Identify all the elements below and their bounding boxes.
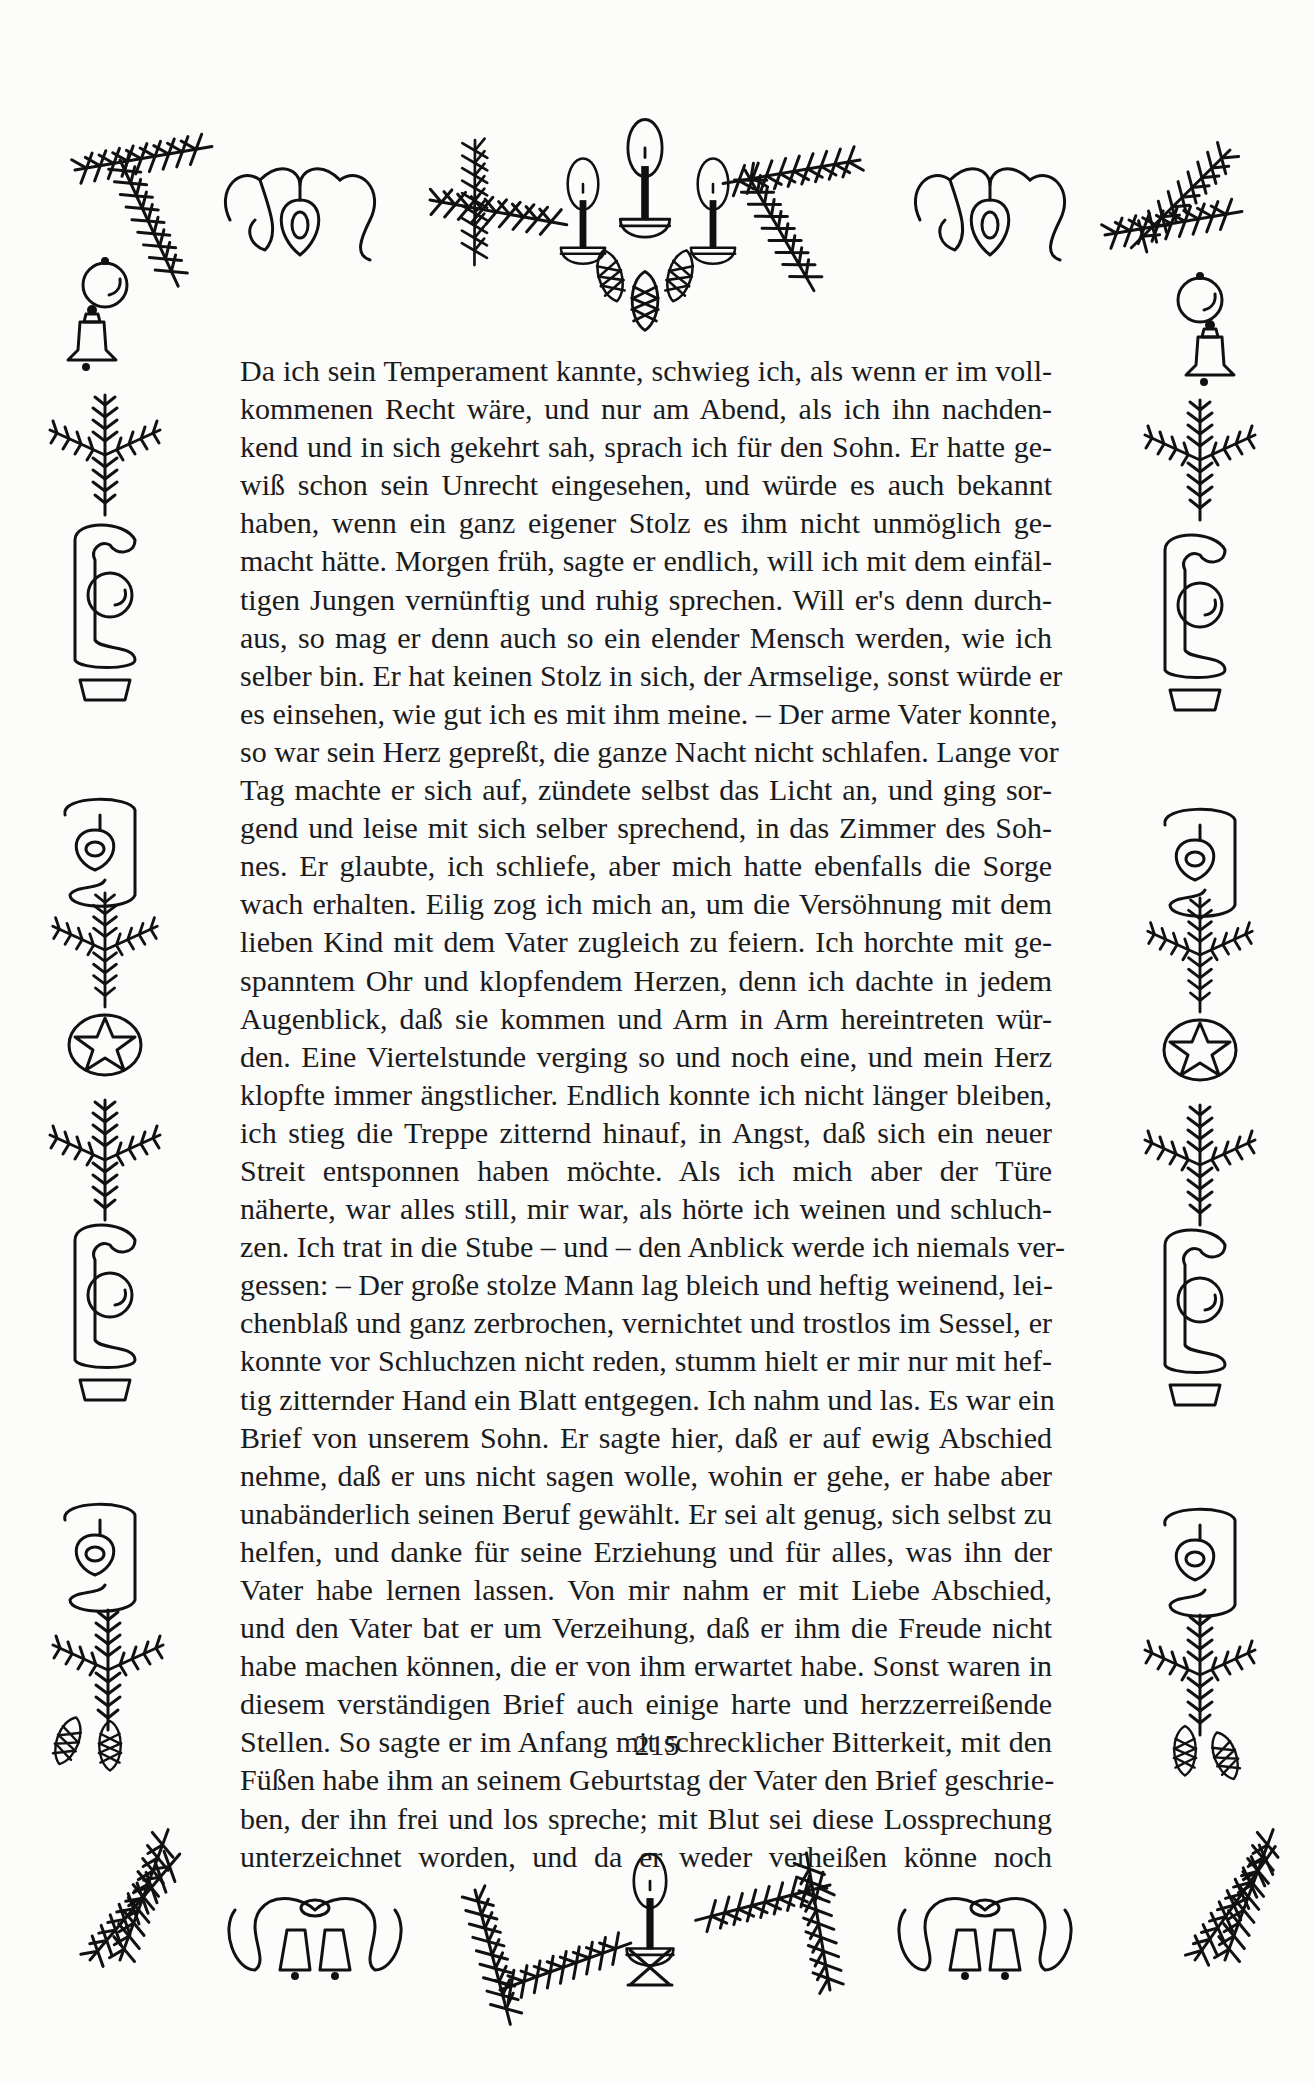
text-line: ich stieg die Treppe zitternd hinauf, in… [240,1114,1052,1152]
text-line: gend und leise mit sich selber sprechend… [240,809,1052,847]
text-line: tigen Jungen vernünftig und ruhig sprech… [240,581,1052,619]
body-text: Da ich sein Temperament kannte, schwieg … [240,352,1052,1876]
text-line: lieben Kind mit dem Vater zugleich zu fe… [240,923,1052,961]
text-line: nes. Er glaubte, ich schliefe, aber mich… [240,847,1052,885]
text-line: Da ich sein Temperament kannte, schwieg … [240,352,1052,390]
text-line: näherte, war alles still, mir war, als h… [240,1190,1052,1228]
text-line: so war sein Herz gepreßt, die ganze Nach… [240,733,1052,771]
text-line: kend und in sich gekehrt sah, sprach ich… [240,428,1052,466]
text-line: selber bin. Er hat keinen Stolz in sich,… [240,657,1052,695]
text-line: Vater habe lernen lassen. Von mir nahm e… [240,1571,1052,1609]
text-line: helfen, und danke für seine Erziehung un… [240,1533,1052,1571]
text-line: wach erhalten. Eilig zog ich mich an, um… [240,885,1052,923]
text-line: aus, so mag er denn auch so ein elender … [240,619,1052,657]
text-line: Augenblick, daß sie kommen und Arm in Ar… [240,1000,1052,1038]
text-line: Füßen habe ihm an seinem Geburtstag der … [240,1761,1052,1799]
text-line: spanntem Ohr und klopfendem Herzen, denn… [240,962,1052,1000]
text-line: ben, der ihn frei und los spreche; mit B… [240,1800,1052,1838]
text-line: konnte vor Schluchzen nicht reden, stumm… [240,1342,1052,1380]
book-page: Da ich sein Temperament kannte, schwieg … [0,0,1314,2085]
text-line: zen. Ich trat in die Stube – und – den A… [240,1228,1052,1266]
text-line: habe machen können, die er von ihm erwar… [240,1647,1052,1685]
text-line: nehme, daß er uns nicht sagen wolle, woh… [240,1457,1052,1495]
text-line: den. Eine Viertelstunde verging so und n… [240,1038,1052,1076]
text-line: unterzeichnet worden, und da er weder ve… [240,1838,1052,1876]
text-line: wiß schon sein Unrecht eingesehen, und w… [240,466,1052,504]
text-line: haben, wenn ein ganz eigener Stolz es ih… [240,504,1052,542]
text-line: unabänderlich seinen Beruf gewählt. Er s… [240,1495,1052,1533]
right-border [1145,273,1295,1970]
text-line: chenblaß und ganz zerbrochen, vernichtet… [240,1304,1052,1342]
text-line: tig zitternder Hand ein Blatt entgegen. … [240,1381,1052,1419]
text-line: kommenen Recht wäre, und nur am Abend, a… [240,390,1052,428]
text-line: Brief von unserem Sohn. Er sagte hier, d… [240,1419,1052,1457]
left-border [49,258,190,1976]
text-line: Streit entsponnen haben möchte. Als ich … [240,1152,1052,1190]
top-border [66,85,1242,330]
text-line: diesem verständigen Brief auch einige ha… [240,1685,1052,1723]
text-line: macht hätte. Morgen früh, sagte er endli… [240,542,1052,580]
text-line: klopfte immer ängstlicher. Endlich konnt… [240,1076,1052,1114]
page-number: 215 [0,1728,1314,1762]
text-line: und den Vater bat er um Verzeihung, daß … [240,1609,1052,1647]
text-line: Tag machte er sich auf, zündete selbst d… [240,771,1052,809]
text-line: gessen: – Der große stolze Mann lag blei… [240,1266,1052,1304]
text-line: es einsehen, wie gut ich es mit ihm mein… [240,695,1052,733]
